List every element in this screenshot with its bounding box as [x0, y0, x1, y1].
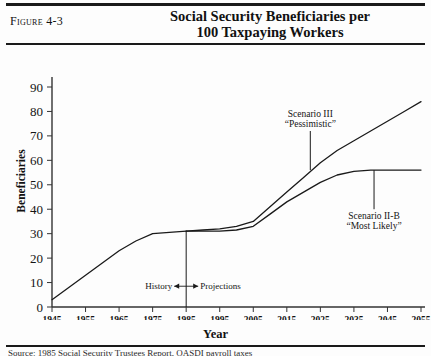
scenario-3-label-line1: Scenario III — [288, 109, 333, 119]
figure-source-caption: Source: 1985 Social Security Trustees Re… — [8, 348, 423, 356]
figure-page: Figure 4-3 Social Security Beneficiaries… — [0, 0, 431, 356]
y-axis-tick-label: 30 — [30, 226, 43, 241]
y-axis-title: Beneficiaries — [15, 136, 27, 226]
y-axis-tick-label: 20 — [30, 251, 43, 266]
bottom-rule — [6, 345, 425, 347]
divider-arrow-left — [174, 284, 179, 289]
x-axis-tick-label: 1955 — [76, 315, 95, 320]
y-axis-tick-label: 90 — [30, 80, 43, 95]
projections-label: Projections — [200, 281, 241, 291]
axis-lines — [52, 77, 425, 307]
data-series-group — [52, 102, 421, 300]
x-axis-tick-label: 2005 — [244, 315, 263, 320]
y-axis-tick-group: 0102030405060708090 — [30, 80, 52, 315]
y-axis-tick-label: 80 — [30, 104, 43, 119]
x-axis-tick-label: 1975 — [143, 315, 162, 320]
figure-title-line2: 100 Taxpaying Workers — [120, 24, 420, 40]
chart-plot-area: 0102030405060708090 19451955196519751985… — [0, 50, 431, 320]
figure-title-line1: Social Security Beneficiaries per — [120, 8, 420, 24]
x-axis-tick-label: 1985 — [177, 315, 196, 320]
top-rule-thin — [6, 43, 425, 45]
annotation-group: Scenario III“Pessimistic”Scenario II-B“M… — [145, 109, 401, 307]
x-axis-tick-label: 1965 — [110, 315, 129, 320]
x-axis-tick-label: 2055 — [412, 315, 431, 320]
x-axis-tick-label: 2035 — [344, 315, 363, 320]
x-axis-tick-label: 2045 — [378, 315, 397, 320]
y-axis-tick-label: 40 — [30, 202, 43, 217]
y-axis-tick-label: 0 — [37, 300, 44, 315]
scenario-3-label-line2: “Pessimistic” — [285, 119, 336, 129]
scenario-2b-label-line2: “Most Likely” — [346, 221, 401, 231]
x-axis-tick-label: 1995 — [210, 315, 229, 320]
y-axis-tick-label: 70 — [30, 128, 43, 143]
x-axis-tick-label: 2025 — [311, 315, 330, 320]
scenario-2b-label-line1: Scenario II-B — [348, 211, 399, 221]
x-axis-tick-group: 1945195519651975198519952005201520252035… — [43, 307, 431, 320]
y-axis-tick-label: 60 — [30, 153, 43, 168]
divider-arrow-right — [193, 284, 198, 289]
x-axis-tick-label: 2015 — [277, 315, 296, 320]
figure-label: Figure 4-3 — [10, 14, 63, 29]
top-rule-thick — [6, 3, 425, 6]
y-axis-tick-label: 10 — [30, 275, 43, 290]
y-axis-tick-label: 50 — [30, 177, 43, 192]
x-axis-title: Year — [0, 327, 431, 342]
x-axis-tick-label: 1945 — [43, 315, 62, 320]
history-label: History — [145, 281, 173, 291]
line-chart-svg: 0102030405060708090 19451955196519751985… — [0, 50, 431, 320]
figure-title: Social Security Beneficiaries per 100 Ta… — [120, 8, 420, 40]
